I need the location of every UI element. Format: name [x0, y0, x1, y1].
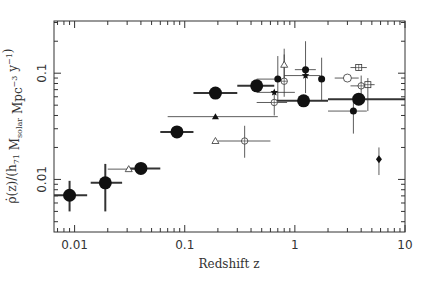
circle-open-marker	[343, 74, 351, 82]
plot-frame	[54, 21, 405, 232]
circle-filled-large-marker	[250, 79, 263, 92]
square-open-cross-marker	[356, 65, 362, 71]
x-tick-label: 0.01	[61, 238, 88, 252]
circle-filled-large-marker	[99, 176, 112, 189]
circle-open-cross-marker	[358, 83, 364, 89]
triangle-open-marker	[212, 138, 219, 144]
circle-filled-large-marker	[297, 94, 310, 107]
data-points	[54, 41, 405, 211]
circle-filled-large-marker	[209, 87, 222, 100]
tick-labels: 0.010.11100.010.1	[35, 64, 413, 252]
diamond-filled-marker	[376, 155, 382, 163]
y-axis-label: ρ̇(z)/(h71 Msolar Mpc−3 y−1)	[1, 49, 25, 204]
circle-filled-large-marker	[134, 162, 147, 175]
circle-open-cross-marker	[281, 78, 287, 84]
circle-open-cross-marker	[241, 138, 247, 144]
y-tick-label: 0.01	[35, 166, 49, 193]
sfr-density-chart: 0.010.11100.010.1 Redshift z ρ̇(z)/(h71 …	[0, 0, 428, 282]
axis-ticks	[54, 21, 405, 232]
circle-filled-large-marker	[352, 93, 365, 106]
triangle-open-marker	[281, 61, 288, 67]
circle-filled-small-marker	[350, 108, 357, 115]
triangle-filled-marker	[212, 113, 219, 119]
circle-open-cross-marker	[271, 99, 277, 105]
axes-box	[54, 21, 405, 232]
x-tick-label: 10	[397, 238, 412, 252]
circle-filled-large-marker	[170, 125, 183, 138]
x-tick-label: 0.1	[175, 238, 194, 252]
circle-filled-large-marker	[63, 189, 76, 202]
x-axis-label: Redshift z	[199, 257, 260, 271]
circle-filled-small-marker	[318, 76, 325, 83]
square-open-cross-marker	[365, 82, 371, 88]
circle-filled-small-marker	[274, 76, 281, 83]
y-tick-label: 0.1	[35, 64, 49, 83]
x-tick-label: 1	[291, 238, 299, 252]
